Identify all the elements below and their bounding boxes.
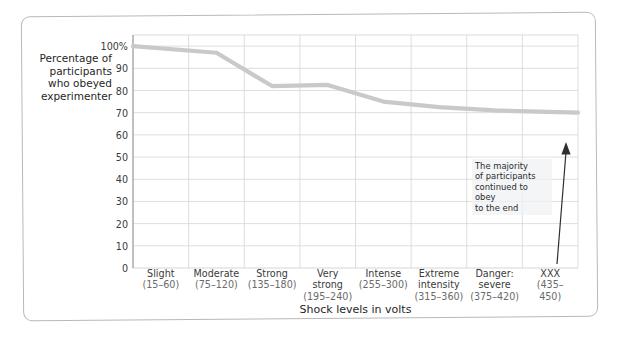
x-tick-label-0: Slight(15–60) [142,268,179,291]
y-tick-label-30: 30 [88,196,128,207]
x-tick-name-5: Extreme intensity [414,268,463,291]
x-tick-name-3: Very strong [303,268,352,291]
grid-lines [133,35,578,268]
x-tick-label-1: Moderate(75–120) [194,268,240,291]
x-tick-name-4: Intense [359,268,408,279]
x-tick-label-6: Danger: severe(375–420) [470,268,519,302]
x-tick-label-7: XXX(435–450) [536,268,564,302]
x-tick-label-3: Very strong(195–240) [303,268,352,302]
x-axis-title: Shock levels in volts [133,303,578,316]
x-tick-range-3: (195–240) [303,291,352,302]
y-tick-label-10: 10 [88,240,128,251]
x-tick-range-7: (435–450) [536,279,564,302]
annotation-line-1: The majority [475,161,549,171]
x-tick-name-1: Moderate [194,268,240,279]
annotation-line-4: to the end [475,203,549,213]
figure-container: Percentage of participants who obeyed ex… [0,0,619,339]
x-tick-label-2: Strong(135–180) [248,268,297,291]
y-axis-tick-labels: 0102030405060708090100% [88,0,128,339]
x-tick-range-6: (375–420) [470,291,519,302]
y-tick-label-20: 20 [88,218,128,229]
x-tick-range-0: (15–60) [142,279,179,290]
chart-annotation-callout: The majority of participants continued t… [472,159,552,215]
y-tick-label-0: 0 [88,263,128,274]
annotation-line-3: continued to obey [475,182,549,203]
y-tick-label-40: 40 [88,174,128,185]
x-tick-name-2: Strong [248,268,297,279]
x-tick-name-6: Danger: severe [470,268,519,291]
x-tick-label-5: Extreme intensity(315–360) [414,268,463,302]
y-tick-label-100: 100% [88,41,128,52]
annotation-line-2: of participants [475,171,549,181]
x-tick-range-4: (255–300) [359,279,408,290]
y-tick-label-90: 90 [88,63,128,74]
y-tick-label-50: 50 [88,152,128,163]
x-tick-range-1: (75–120) [194,279,240,290]
x-tick-range-5: (315–360) [414,291,463,302]
x-tick-name-0: Slight [142,268,179,279]
y-tick-label-80: 80 [88,85,128,96]
y-tick-label-60: 60 [88,129,128,140]
x-tick-name-7: XXX [536,268,564,279]
y-tick-label-70: 70 [88,107,128,118]
x-tick-range-2: (135–180) [248,279,297,290]
x-tick-label-4: Intense(255–300) [359,268,408,291]
